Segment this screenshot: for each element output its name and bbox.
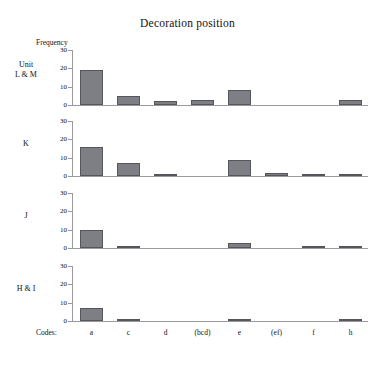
bar: [80, 230, 103, 248]
bar: [302, 174, 325, 176]
panel-label: Unit: [2, 60, 50, 70]
bar: [339, 319, 362, 321]
bars-group: [73, 266, 368, 321]
bar: [80, 308, 103, 321]
panel-label-group: J: [2, 211, 50, 221]
y-tick-label: 0: [64, 102, 68, 109]
y-tick-mark: [68, 87, 72, 88]
y-tick-mark: [68, 266, 72, 267]
x-axis-line: [72, 105, 368, 106]
bar: [154, 174, 177, 176]
x-axis-title: Codes:: [36, 328, 57, 337]
bar: [339, 174, 362, 176]
chart-figure: Decoration position Frequency UnitL & M0…: [0, 0, 375, 368]
y-tick-mark: [68, 230, 72, 231]
y-tick-label: 20: [60, 65, 67, 72]
y-tick-label: 30: [60, 190, 67, 197]
bar: [117, 319, 140, 321]
bar: [154, 101, 177, 105]
plot-area: 0102030: [72, 266, 368, 322]
panel-k: K0102030: [0, 121, 375, 177]
bar: [228, 90, 251, 105]
panel-j: J0102030: [0, 193, 375, 249]
y-tick-label: 30: [60, 118, 67, 125]
bars-group: [73, 50, 368, 105]
bar: [265, 173, 288, 176]
y-tick-label: 0: [64, 245, 68, 252]
bars-group: [73, 193, 368, 248]
bar: [191, 100, 214, 106]
y-tick-label: 0: [64, 173, 68, 180]
panel-label-second-line: L & M: [2, 70, 50, 80]
x-axis-line: [72, 248, 368, 249]
y-tick-label: 20: [60, 208, 67, 215]
bar: [228, 319, 251, 321]
bar: [302, 246, 325, 248]
y-tick-mark: [68, 211, 72, 212]
x-axis-line: [72, 321, 368, 322]
x-axis-line: [72, 176, 368, 177]
panel-label: H & I: [2, 284, 50, 294]
y-tick-label: 10: [60, 226, 67, 233]
y-tick-mark: [68, 50, 72, 51]
bar: [339, 100, 362, 106]
bar: [80, 147, 103, 176]
y-tick-mark: [68, 68, 72, 69]
y-tick-mark: [68, 284, 72, 285]
y-tick-mark: [68, 158, 72, 159]
y-tick-mark: [68, 105, 72, 106]
bar: [117, 163, 140, 176]
y-tick-label: 20: [60, 281, 67, 288]
panel-label: K: [2, 139, 50, 149]
chart-title: Decoration position: [0, 17, 375, 29]
y-tick-label: 10: [60, 154, 67, 161]
y-tick-label: 30: [60, 263, 67, 270]
y-tick-mark: [68, 193, 72, 194]
y-tick-label: 30: [60, 47, 67, 54]
y-tick-label: 0: [64, 318, 68, 325]
y-tick-label: 10: [60, 299, 67, 306]
bar: [80, 70, 103, 105]
bar: [228, 160, 251, 177]
panel-label-group: UnitL & M: [2, 60, 50, 80]
panel-label: J: [2, 211, 50, 221]
bar: [117, 96, 140, 105]
plot-area: 0102030: [72, 50, 368, 106]
bar: [117, 246, 140, 248]
panel-h-i: H & I0102030: [0, 266, 375, 322]
plot-area: 0102030: [72, 121, 368, 177]
x-tick-label: h: [321, 328, 375, 337]
panel-label-group: K: [2, 139, 50, 149]
bar: [228, 243, 251, 248]
bar: [339, 246, 362, 248]
y-tick-mark: [68, 139, 72, 140]
y-tick-mark: [68, 176, 72, 177]
y-tick-mark: [68, 321, 72, 322]
panel-unit-l-m: UnitL & M0102030: [0, 50, 375, 106]
plot-area: 0102030: [72, 193, 368, 249]
y-tick-label: 10: [60, 83, 67, 90]
y-tick-mark: [68, 248, 72, 249]
panel-label-group: H & I: [2, 284, 50, 294]
y-tick-label: 20: [60, 136, 67, 143]
y-tick-mark: [68, 303, 72, 304]
y-tick-mark: [68, 121, 72, 122]
bars-group: [73, 121, 368, 176]
